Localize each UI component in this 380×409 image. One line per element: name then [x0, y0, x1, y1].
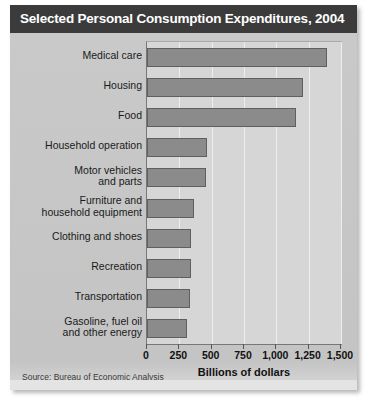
- bar: [147, 289, 190, 308]
- bar: [147, 199, 194, 218]
- chart-card: Selected Personal Consumption Expenditur…: [10, 5, 357, 390]
- category-label: Housing: [12, 80, 142, 92]
- plot-area: [146, 41, 342, 345]
- bar: [147, 138, 207, 157]
- tick-label: 0: [143, 349, 149, 361]
- category-label: Gasoline, fuel oil and other energy: [12, 316, 142, 339]
- category-label: Household operation: [12, 140, 142, 152]
- bar: [147, 259, 191, 278]
- bar: [147, 78, 303, 97]
- tick-label: 250: [170, 349, 188, 361]
- category-label: Recreation: [12, 261, 142, 273]
- chart-body: Medical careHousingFoodHousehold operati…: [10, 33, 357, 390]
- bar: [147, 108, 296, 127]
- gridline: [309, 42, 310, 344]
- bar: [147, 48, 327, 67]
- category-label: Transportation: [12, 291, 142, 303]
- tick-label: 750: [234, 349, 252, 361]
- category-label: Clothing and shoes: [12, 231, 142, 243]
- category-label: Medical care: [12, 50, 142, 62]
- chart-title: Selected Personal Consumption Expenditur…: [20, 11, 344, 26]
- card-bottom-edge: [10, 380, 357, 390]
- value-axis-ticks: 02505007501,0001,2501,500: [146, 344, 342, 350]
- tick-label: 500: [202, 349, 220, 361]
- bar: [147, 229, 191, 248]
- category-label: Food: [12, 110, 142, 122]
- gridline: [341, 42, 342, 344]
- category-label: Furniture and household equipment: [12, 195, 142, 218]
- tick-label: 1,250: [295, 349, 321, 361]
- tick-label: 1,500: [327, 349, 353, 361]
- category-axis-labels: Medical careHousingFoodHousehold operati…: [10, 41, 142, 343]
- bar: [147, 319, 187, 338]
- x-axis-title: Billions of dollars: [146, 366, 342, 378]
- bar: [147, 168, 206, 187]
- chart-title-bar: Selected Personal Consumption Expenditur…: [10, 5, 357, 33]
- category-label: Motor vehicles and parts: [12, 165, 142, 188]
- tick-label: 1,000: [262, 349, 288, 361]
